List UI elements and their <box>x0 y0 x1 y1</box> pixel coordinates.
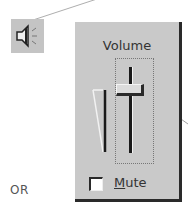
speaker-icon <box>11 19 44 53</box>
panel-title: Volume <box>75 38 179 53</box>
mute-checkbox[interactable] <box>89 177 103 191</box>
volume-slider-thumb[interactable] <box>116 84 144 96</box>
or-label: OR <box>10 183 29 197</box>
mute-accel-key: M <box>114 175 125 190</box>
mute-label-rest: ute <box>125 175 146 190</box>
mute-label[interactable]: Mute <box>114 175 147 190</box>
slider-focus-rect <box>115 58 154 164</box>
tray-speaker-button[interactable] <box>11 19 44 53</box>
volume-panel: Volume Mute <box>75 22 182 202</box>
volume-slider-track[interactable] <box>129 67 133 153</box>
